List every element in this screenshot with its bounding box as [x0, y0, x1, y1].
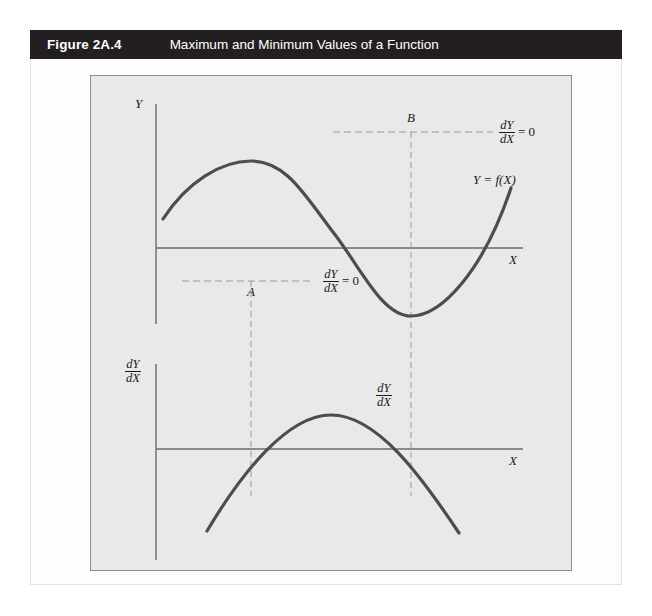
max-derivative-denominator: dX [499, 133, 515, 146]
lower-axis-denominator: dX [125, 372, 141, 385]
derivative-curve-label: dY dX [376, 382, 392, 409]
derivative-curve [207, 415, 459, 533]
lower-axis-numerator: dY [125, 358, 141, 372]
max-point-label: B [407, 110, 415, 126]
min-derivative-numerator: dY [323, 268, 339, 282]
upper-y-axis-label: Y [135, 96, 142, 112]
lower-x-axis-label: X [509, 453, 517, 469]
max-derivative-numerator: dY [499, 119, 515, 133]
figure-title: Maximum and Minimum Values of a Function [170, 37, 439, 52]
min-equals-zero: = 0 [342, 273, 359, 289]
max-derivative-zero-label: dY dX = 0 [499, 119, 535, 146]
lower-y-axis-label: dY dX [125, 358, 141, 385]
min-derivative-zero-label: dY dX = 0 [323, 268, 359, 295]
function-curve-label: Y = f(X) [473, 172, 516, 188]
figure-header-bar: Figure 2A.4 Maximum and Minimum Values o… [30, 30, 622, 59]
figure-card: Figure 2A.4 Maximum and Minimum Values o… [0, 0, 652, 616]
derivative-label-numerator: dY [376, 382, 392, 396]
upper-x-axis-label: X [509, 252, 517, 268]
min-point-label: A [247, 284, 255, 300]
max-equals-zero: = 0 [518, 124, 535, 140]
figure-number: Figure 2A.4 [47, 37, 122, 52]
derivative-label-denominator: dX [376, 396, 392, 409]
plot-panel: Y X A B dY dX = 0 dY dX = 0 [90, 75, 572, 571]
min-derivative-denominator: dX [323, 282, 339, 295]
figure-graphics [91, 76, 571, 570]
